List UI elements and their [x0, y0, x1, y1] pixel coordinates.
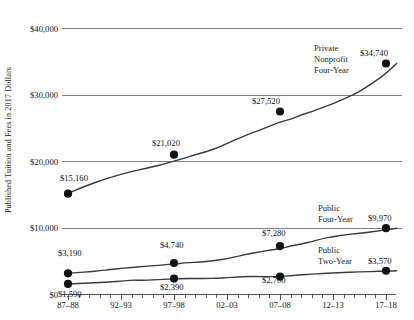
gridlines [62, 29, 402, 229]
series-lines [68, 63, 397, 283]
y-tick-label-40000: $40,000 [30, 24, 58, 34]
value-public4-start: $3,190 [58, 248, 82, 258]
private-label-line2: Nonprofit [314, 54, 349, 64]
data-point-marker [382, 267, 390, 275]
series-inline-labels: Private Nonprofit Four-Year Public Four-… [314, 43, 353, 266]
y-axis-tick-labels: $40,000 $30,000 $20,000 $10,000 $0 [30, 24, 58, 300]
data-point-marker [64, 269, 72, 277]
public-four-year-label-line1: Public [318, 203, 340, 213]
y-tick-label-10000: $10,000 [30, 223, 58, 233]
data-point-marker [170, 151, 178, 159]
data-point-marker [64, 190, 72, 198]
value-public4-mid2: $7,280 [262, 228, 286, 238]
value-public4-end: $9,970 [368, 213, 392, 223]
value-public2-mid1: $2,390 [160, 282, 184, 292]
tuition-trend-chart: Published Tuition and Fees in 2017 Dolla… [0, 0, 414, 320]
value-public2-start: $1,590 [58, 289, 82, 299]
x-tick-label-2: 92–93 [110, 300, 131, 310]
x-tick-label-5: 07–08 [269, 300, 290, 310]
x-tick-label-1: 87–88 [57, 300, 78, 310]
value-private-start: $15,160 [60, 173, 88, 183]
public-four-year-label-line2: Four-Year [318, 214, 353, 224]
y-tick-label-0: $0 [49, 290, 58, 300]
data-point-marker [64, 280, 72, 288]
series-line-0 [68, 63, 397, 193]
x-tick-label-7: 17–18 [375, 300, 396, 310]
data-point-marker [382, 59, 390, 67]
data-point-marker [170, 259, 178, 267]
series-markers [64, 59, 390, 288]
x-tick-label-6: 12–13 [322, 300, 343, 310]
x-axis-tick-labels: 87–88 92–93 97–98 02–03 07–08 12–13 17–1… [57, 300, 396, 310]
y-tick-label-30000: $30,000 [30, 90, 58, 100]
public-two-year-label-line1: Public [318, 245, 340, 255]
value-private-mid1: $21,020 [152, 138, 180, 148]
private-label-line3: Four-Year [314, 65, 349, 75]
private-label-line1: Private [314, 43, 339, 53]
y-tick-label-20000: $20,000 [30, 157, 58, 167]
data-point-marker [276, 107, 284, 115]
series-line-1 [68, 228, 397, 273]
series-line-2 [68, 271, 397, 284]
value-private-end: $34,740 [360, 48, 388, 58]
value-private-mid2: $27,520 [252, 96, 280, 106]
x-tick-label-4: 02–03 [216, 300, 237, 310]
data-point-marker [276, 242, 284, 250]
value-public2-mid2: $2,700 [262, 275, 286, 285]
x-tick-marks [69, 295, 387, 300]
x-axis [62, 295, 396, 300]
value-public2-end: $3,570 [368, 256, 392, 266]
data-point-marker [382, 224, 390, 232]
chart-canvas: $40,000 $30,000 $20,000 $10,000 $0 87–88… [0, 0, 414, 320]
x-tick-label-3: 97–98 [163, 300, 184, 310]
public-two-year-label-line2: Two-Year [318, 256, 352, 266]
value-public4-mid1: $4,740 [160, 240, 184, 250]
